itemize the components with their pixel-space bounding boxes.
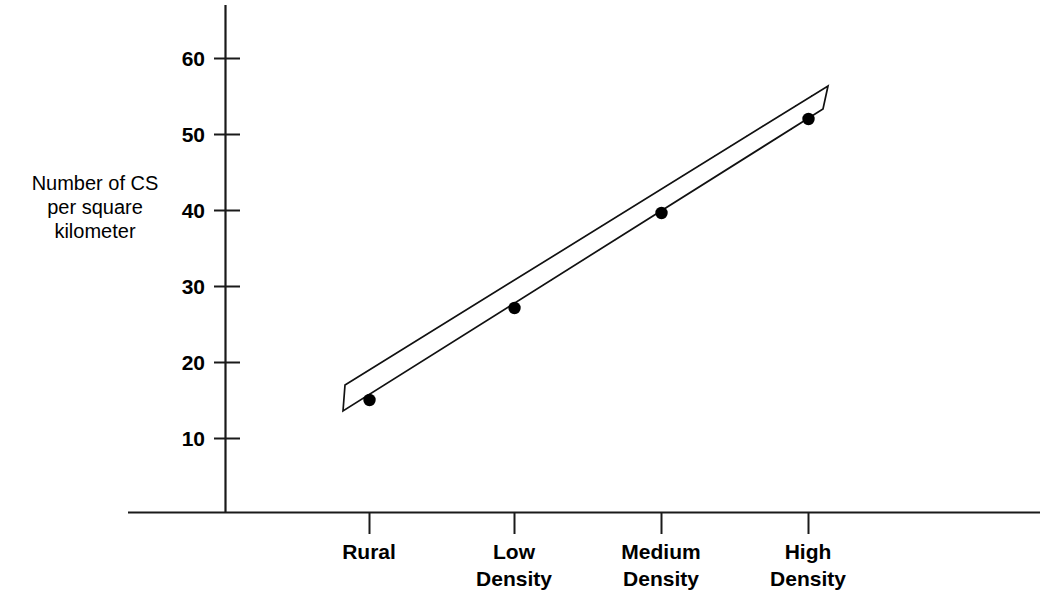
x-tick-label-medium: Medium: [621, 540, 700, 563]
y-tick-label-30: 30: [182, 275, 205, 298]
y-tick-label-40: 40: [182, 199, 205, 222]
data-point-rural[interactable]: [363, 394, 375, 406]
y-tick-label-20: 20: [182, 351, 205, 374]
x-tick-label-medium-density: Density: [623, 567, 699, 590]
y-axis-title-line-1: Number of CS: [32, 172, 159, 194]
y-tick-label-10: 10: [182, 427, 205, 450]
scatter-plot-svg: 60 50 40 30 20 10 Number of CS per squar…: [0, 0, 1048, 602]
y-axis-title-line-3: kilometer: [54, 220, 135, 242]
x-tick-label-rural: Rural: [342, 540, 396, 563]
data-point-low-density[interactable]: [508, 302, 520, 314]
x-tick-label-high-density: Density: [770, 567, 846, 590]
x-tick-label-high: High: [785, 540, 832, 563]
x-tick-label-low-density: Density: [476, 567, 552, 590]
data-point-high-density[interactable]: [802, 113, 814, 125]
y-tick-label-50: 50: [182, 123, 205, 146]
y-axis-title: Number of CS per square kilometer: [32, 172, 159, 242]
x-tick-label-low: Low: [493, 540, 536, 563]
chart-figure: 60 50 40 30 20 10 Number of CS per squar…: [0, 0, 1048, 602]
data-point-medium-density[interactable]: [655, 207, 667, 219]
x-axis: Rural Low Density Medium Density High De…: [128, 512, 1040, 590]
y-axis-title-line-2: per square: [47, 196, 143, 218]
trend-band-outline: [343, 86, 828, 411]
y-axis: 60 50 40 30 20 10: [182, 5, 240, 512]
trend-band: [343, 86, 828, 411]
y-tick-label-60: 60: [182, 47, 205, 70]
